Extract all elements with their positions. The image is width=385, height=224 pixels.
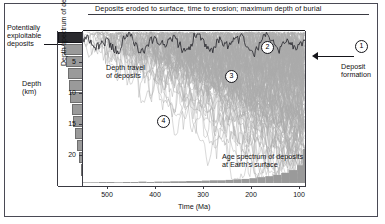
depth-tick-label: 15 (60, 120, 76, 127)
header-rule (88, 14, 369, 15)
depth-tick (79, 155, 82, 156)
plot-bottom-axis (58, 186, 306, 187)
depth-tick-label: 10 (60, 89, 76, 96)
callout-2: 2 (261, 41, 274, 54)
header-title: Deposits eroded to surface, time to eros… (95, 5, 322, 13)
exploitable-deposits-label: Potentially exploitable deposits (7, 24, 41, 48)
time-tick (203, 186, 204, 189)
time-tick-label: 100 (287, 191, 311, 198)
spectrum-vertical-label: Depth spectrum of deposits (60, 0, 67, 66)
depth-tick (79, 62, 82, 63)
plot-right-axis (305, 31, 306, 186)
depth-tick (79, 93, 82, 94)
callout-4: 4 (157, 115, 170, 128)
deposit-formation-arrow-head (312, 52, 318, 60)
spectrum-bar (68, 68, 84, 79)
time-tick-label: 300 (191, 191, 215, 198)
depth-tick-label: 5 (60, 58, 76, 65)
callout-3: 3 (225, 70, 238, 83)
time-tick-label: 400 (143, 191, 167, 198)
plot-left-axis (82, 31, 83, 186)
figure-root: Deposits eroded to surface, time to eros… (0, 0, 385, 224)
time-tick-label: 500 (95, 191, 119, 198)
depth-axis-title: Depth (km) (22, 80, 41, 96)
time-tick (251, 186, 252, 189)
depth-travel-annotation: Depth travel of deposits (106, 64, 145, 80)
time-tick (107, 186, 108, 189)
x-axis-title: Time (Ma) (178, 203, 210, 211)
time-tick (299, 186, 300, 189)
deposit-formation-arrow-shaft (316, 56, 354, 57)
deposit-formation-label: Deposit formation (341, 63, 371, 79)
depth-tick (79, 124, 82, 125)
depth-tick-label: 20 (60, 151, 76, 158)
plot-top-axis (83, 30, 305, 31)
time-tick (155, 186, 156, 189)
callout-1: 1 (355, 40, 368, 53)
time-tick-label: 200 (239, 191, 263, 198)
age-spectrum-annotation: Age spectrum of deposits at Earth's surf… (222, 153, 303, 169)
